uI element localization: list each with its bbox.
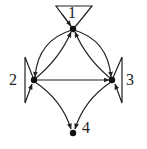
node-1-label: 1 — [68, 5, 76, 21]
node-4-label: 4 — [82, 120, 90, 136]
node-3 — [109, 77, 115, 83]
node-4 — [70, 130, 76, 136]
graph-diagram — [0, 0, 147, 149]
edge-1-to-3 — [74, 30, 111, 77]
node-2 — [31, 77, 37, 83]
node-3-label: 3 — [126, 72, 134, 88]
node-2-label: 2 — [9, 72, 17, 88]
node-1 — [70, 26, 76, 32]
edge-2-to-4 — [35, 82, 71, 129]
edge-3-to-4 — [75, 82, 111, 129]
edge-1-to-2 — [35, 30, 72, 77]
